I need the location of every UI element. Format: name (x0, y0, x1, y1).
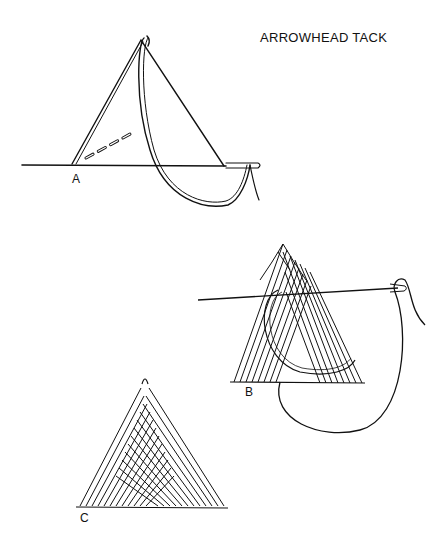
figure-c-illustration (0, 0, 448, 545)
diagram-canvas: ARROWHEAD TACK A B C (0, 0, 448, 545)
